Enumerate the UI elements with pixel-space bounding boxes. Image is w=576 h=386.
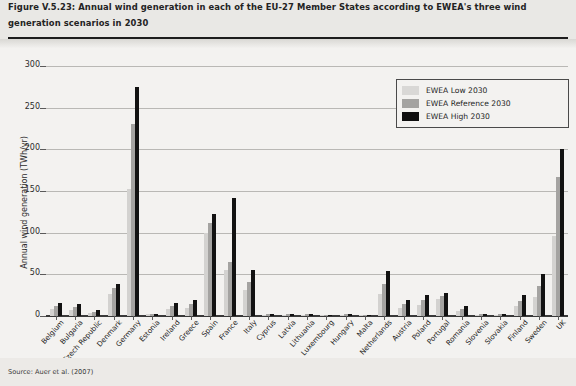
legend-swatch-high [402, 112, 419, 121]
bar-group [320, 66, 332, 316]
bar-group [108, 66, 120, 316]
bar-group [359, 66, 371, 316]
bar-group [204, 66, 216, 316]
bar-high [174, 303, 178, 316]
bar-high [502, 314, 506, 317]
bar-high [386, 271, 390, 316]
bar-high [522, 295, 526, 316]
bar-group [69, 66, 81, 316]
bar-group [282, 66, 294, 316]
bar-high [232, 198, 236, 316]
bar-group [88, 66, 100, 316]
figure-source: Source: Auer et al. (2007) [8, 368, 93, 376]
bar-high [116, 284, 120, 317]
bar-high [367, 315, 371, 316]
bar-high [251, 270, 255, 316]
legend-item-reference: EWEA Reference 2030 [402, 97, 562, 110]
y-axis-title: Annual wind generation (TWh/yr) [20, 93, 29, 313]
y-axis-tick-label: 250 [2, 102, 40, 111]
legend-item-low: EWEA Low 2030 [402, 84, 562, 97]
x-axis-tick-label: France [217, 318, 240, 342]
x-axis-tick-label: Austria [390, 318, 414, 343]
legend-label-reference: EWEA Reference 2030 [426, 99, 511, 108]
bar-group [340, 66, 352, 316]
y-axis-tick-mark [40, 191, 46, 192]
bar-high [444, 293, 448, 316]
bar-high [309, 314, 313, 317]
bar-high [541, 274, 545, 316]
y-axis-tick-mark [40, 66, 46, 67]
bar-high [58, 303, 62, 316]
bar-group [243, 66, 255, 316]
bar-group [185, 66, 197, 316]
bar-group [262, 66, 274, 316]
figure-header: Figure V.5.23: Annual wind generation in… [0, 0, 576, 40]
y-axis-tick-mark [40, 233, 46, 234]
chart-legend: EWEA Low 2030 EWEA Reference 2030 EWEA H… [396, 79, 569, 128]
legend-label-high: EWEA High 2030 [426, 112, 490, 121]
bar-high [328, 315, 332, 316]
bar-high [464, 306, 468, 316]
x-axis-tick-label: Greece [177, 318, 201, 343]
chart-plot-region: Annual wind generation (TWh/yr) 05010015… [0, 48, 576, 360]
bar-high [77, 304, 81, 317]
x-axis-tick-label: UK [555, 318, 568, 331]
bar-group [127, 66, 139, 316]
y-axis-tick-label: 0 [2, 310, 40, 319]
y-axis-tick-label: 300 [2, 60, 40, 69]
bar-high [348, 314, 352, 317]
y-axis-tick-mark [40, 108, 46, 109]
y-axis-tick-mark [40, 149, 46, 150]
legend-item-high: EWEA High 2030 [402, 110, 562, 123]
bar-group [301, 66, 313, 316]
bar-group [50, 66, 62, 316]
bar-high [425, 295, 429, 316]
y-axis-tick-label: 200 [2, 143, 40, 152]
bar-high [406, 300, 410, 316]
figure-title: Figure V.5.23: Annual wind generation in… [8, 0, 568, 31]
bar-high [96, 310, 100, 316]
y-axis-tick-label: 50 [2, 268, 40, 277]
x-axis-tick-label: Cyprus [255, 318, 278, 343]
bar-group [166, 66, 178, 316]
bar-high [483, 314, 487, 317]
bar-high [135, 87, 139, 316]
bar-group [146, 66, 158, 316]
bar-high [290, 314, 294, 317]
y-axis-tick-mark [40, 274, 46, 275]
legend-swatch-low [402, 86, 419, 95]
bar-high [560, 149, 564, 316]
bar-group [378, 66, 390, 316]
bar-group [224, 66, 236, 316]
y-axis-tick-label: 100 [2, 227, 40, 236]
header-shade [0, 39, 576, 48]
x-axis-tick-label: Ireland [158, 318, 181, 342]
legend-label-low: EWEA Low 2030 [426, 86, 487, 95]
y-axis-tick-label: 150 [2, 185, 40, 194]
bar-high [212, 214, 216, 316]
y-axis-tick-mark [40, 316, 46, 317]
bar-high [154, 314, 158, 317]
bar-high [193, 300, 197, 316]
bar-high [270, 314, 274, 317]
figure-page: Figure V.5.23: Annual wind generation in… [0, 0, 576, 386]
legend-swatch-reference [402, 99, 419, 108]
